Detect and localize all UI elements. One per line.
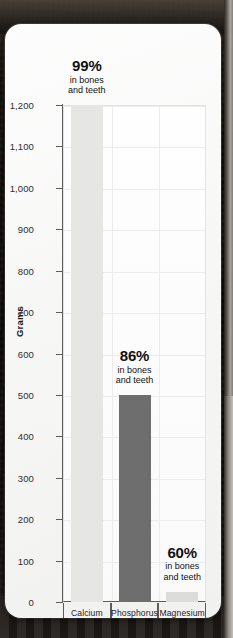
y-axis-tick — [56, 229, 63, 230]
page-edge-sliver-lower — [224, 396, 233, 638]
y-axis-tick — [56, 312, 63, 313]
annotation-line-1: in bones — [50, 75, 124, 86]
annotation-line-2: and teeth — [145, 572, 219, 583]
x-axis-category-calcium: Calcium — [63, 603, 111, 618]
x-axis-category-magnesium: Magnesium — [158, 603, 206, 618]
annotation-line-1: in bones — [98, 365, 172, 376]
x-axis-category-label: Calcium — [71, 608, 103, 618]
annotation-percent: 86% — [98, 347, 172, 365]
y-axis-tick-label: 500 — [5, 389, 34, 400]
annotation-line-2: and teeth — [50, 85, 124, 96]
y-axis-tick-label: 1,000 — [5, 182, 34, 193]
y-axis-tick-label: 300 — [5, 472, 34, 483]
y-axis-tick — [56, 561, 63, 562]
x-axis-category-phosphorus: Phosphorus — [111, 603, 159, 618]
y-axis-tick — [56, 188, 63, 189]
y-axis-tick — [56, 519, 63, 520]
annotation-calcium: 99%in bonesand teeth — [50, 57, 124, 96]
chart-card: 01002003004005006007008009001,0001,1001,… — [5, 24, 221, 618]
annotation-percent: 99% — [50, 57, 124, 75]
y-axis-tick-label: 400 — [5, 431, 34, 442]
y-axis-tick-label: 1,200 — [5, 100, 34, 111]
annotation-phosphorus: 86%in bonesand teeth — [98, 347, 172, 386]
annotation-line-2: and teeth — [98, 375, 172, 386]
y-axis-tick — [56, 395, 63, 396]
x-axis-category-label: Phosphorus — [111, 608, 158, 618]
annotation-line-1: in bones — [145, 561, 219, 572]
y-axis-tick-label: 1,100 — [5, 141, 34, 152]
bar-magnesium[interactable] — [166, 592, 198, 602]
y-axis-tick — [56, 271, 63, 272]
y-axis-tick — [56, 354, 63, 355]
y-axis-title: Grams — [14, 292, 25, 352]
y-axis-tick — [56, 146, 63, 147]
y-axis-tick — [56, 105, 63, 106]
annotation-magnesium: 60%in bonesand teeth — [145, 544, 219, 583]
x-axis-category-label: Magnesium — [159, 608, 204, 618]
y-axis-tick-label: 800 — [5, 265, 34, 276]
y-axis-tick — [56, 478, 63, 479]
y-axis-tick-label: 200 — [5, 514, 34, 525]
y-axis-tick — [56, 436, 63, 437]
y-axis-tick — [56, 602, 63, 603]
y-axis-tick-label: 100 — [5, 555, 34, 566]
y-axis-tick-label: 900 — [5, 224, 34, 235]
y-axis-tick-label: 0 — [5, 597, 34, 608]
annotation-percent: 60% — [145, 544, 219, 562]
